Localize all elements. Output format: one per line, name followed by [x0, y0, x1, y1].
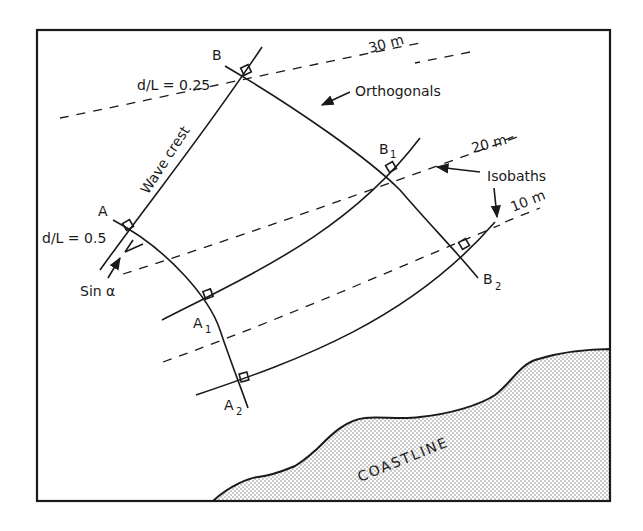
right-angle-A1	[203, 289, 213, 299]
label-isobaths: Isobaths	[487, 168, 546, 184]
wave-crest-3	[196, 222, 495, 395]
right-angle-A	[123, 220, 134, 231]
label-A1-sub: 1	[205, 324, 211, 335]
label-isobath-30m: 30 m	[367, 31, 406, 56]
coastline-land	[213, 349, 610, 501]
right-angle-B1	[386, 162, 397, 173]
label-B1: B	[379, 141, 389, 157]
orthogonals-arrow	[322, 92, 350, 105]
right-angle-B2	[459, 239, 470, 250]
label-orthogonals: Orthogonals	[355, 83, 441, 99]
label-sin-alpha: Sin α	[80, 283, 115, 299]
label-isobath-20m: 20 m	[470, 131, 509, 156]
label-A1: A	[193, 315, 203, 331]
label-A: A	[98, 203, 108, 219]
wave-refraction-diagram: B d/L = 0.25 Wave crest Orthogonals 30 m…	[0, 0, 643, 531]
label-d-over-L-025: d/L = 0.25	[137, 77, 210, 93]
label-B2-sub: 2	[495, 281, 501, 292]
label-A2-sub: 2	[236, 406, 242, 417]
label-B2: B	[483, 271, 493, 287]
label-B1-sub: 1	[390, 149, 396, 160]
label-isobath-10m: 10 m	[508, 186, 547, 214]
right-angle-A2	[239, 372, 249, 382]
wave-crest-2	[162, 138, 420, 320]
label-wave-crest: Wave crest	[137, 123, 193, 197]
isobath-20m	[123, 136, 520, 274]
sin-alpha-arrow	[108, 258, 120, 278]
label-A2: A	[224, 397, 234, 413]
isobaths-arrow-20m	[437, 167, 480, 172]
isobaths-arrow-10m	[494, 188, 497, 217]
label-d-over-L-05: d/L = 0.5	[42, 230, 106, 246]
label-B: B	[212, 47, 222, 63]
